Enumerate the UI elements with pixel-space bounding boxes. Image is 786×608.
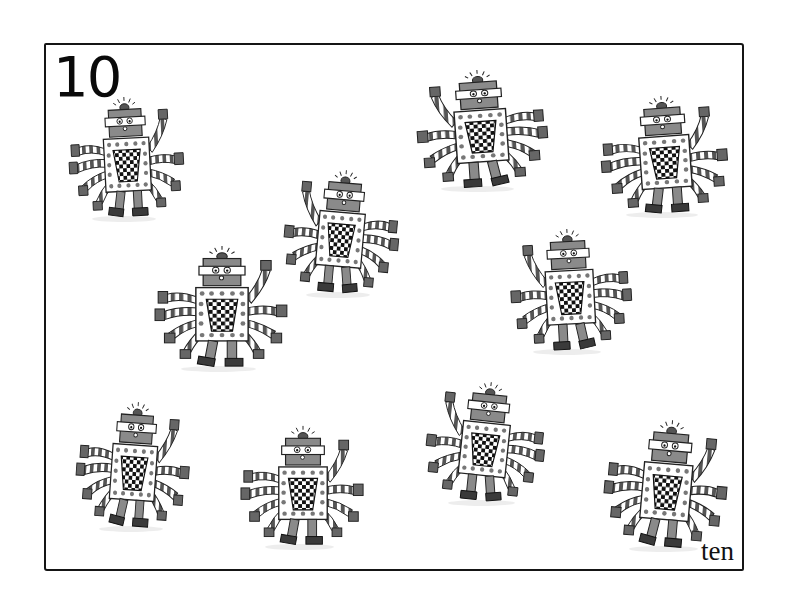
- robot-icon: [65, 92, 189, 223]
- robot-5: [154, 244, 290, 370]
- robot-10: [604, 418, 730, 550]
- robot-4: [282, 168, 400, 296]
- robot-icon: [505, 224, 635, 356]
- robot-6: [508, 227, 632, 353]
- robot-icon: [154, 244, 290, 370]
- robot-9: [424, 380, 546, 504]
- robot-icon: [410, 63, 552, 194]
- robot-icon: [277, 163, 406, 301]
- robot-8: [240, 424, 366, 548]
- robot-icon: [598, 413, 735, 555]
- robot-3: [600, 94, 730, 216]
- robot-icon: [596, 90, 734, 221]
- robot-icon: [418, 374, 552, 510]
- robot-icon: [72, 396, 197, 534]
- robot-icon: [240, 424, 366, 548]
- robot-7: [76, 400, 192, 530]
- robot-2: [414, 68, 548, 190]
- robot-1: [68, 95, 186, 220]
